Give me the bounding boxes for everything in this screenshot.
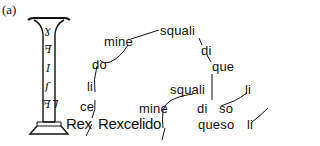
word-li-right-top: li <box>245 83 251 96</box>
word-li-right-bottom: li <box>247 118 253 131</box>
column-glyph: ꟻꓶ <box>43 98 57 111</box>
word-squali-top: squali <box>160 24 195 37</box>
connector-mine-rexcelido <box>162 128 165 140</box>
word-mine-top: mine <box>104 35 133 48</box>
word-di-mid: di <box>197 102 208 115</box>
column-glyph: I <box>46 62 51 75</box>
word-rex: Rex <box>66 116 92 131</box>
word-do: do <box>92 58 107 71</box>
connector-li-bottom <box>252 108 268 122</box>
column-glyph: ꟻ <box>44 43 52 56</box>
column-glyph: ɣ <box>44 24 51 37</box>
connector-mine-squali <box>131 30 159 39</box>
word-que: que <box>212 60 234 73</box>
word-so: so <box>219 102 233 115</box>
word-di-top: di <box>201 44 212 57</box>
word-li-left: li <box>87 80 93 93</box>
word-mine-mid: mine <box>139 102 168 115</box>
word-queso: queso <box>198 118 234 131</box>
word-rexcelido: Rexcelido <box>98 116 161 131</box>
column-glyph: ſ <box>45 80 49 93</box>
word-squali-mid: squali <box>170 83 205 96</box>
word-ce: ce <box>80 100 94 113</box>
